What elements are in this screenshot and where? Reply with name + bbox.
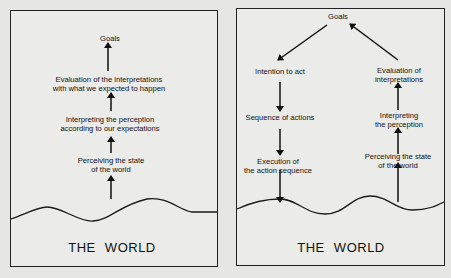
left-world-label: THE WORLD xyxy=(68,240,156,255)
left-interpreting-label: Interpreting the perceptionaccording to … xyxy=(60,115,159,133)
intention-label: Intention to act xyxy=(255,67,305,76)
right-perceiving-label: Perceiving the stateof the world xyxy=(365,152,432,170)
right-goals-label: Goals xyxy=(328,12,348,21)
right-world-label: THE WORLD xyxy=(297,240,385,255)
execution-label: Execution ofthe action sequence xyxy=(244,157,312,175)
left-perceiving-label: Perceiving the stateof the world xyxy=(78,156,145,174)
arrow-evaluation-to-goals xyxy=(350,24,398,60)
right-world-wave xyxy=(237,196,444,214)
right-interpreting-label: Interpretingthe perception xyxy=(375,111,423,129)
right-evaluation-label: Evaluation ofinterpretations xyxy=(375,66,423,84)
diagram-arrows-and-waves xyxy=(0,0,451,278)
arrow-goals-to-intention xyxy=(278,25,327,60)
sequence-label: Sequence of actions xyxy=(246,113,315,122)
left-evaluation-label: Evaluation of the interpretationswith wh… xyxy=(53,75,165,93)
left-world-wave xyxy=(11,199,217,221)
left-goals-label: Goals xyxy=(100,34,120,43)
